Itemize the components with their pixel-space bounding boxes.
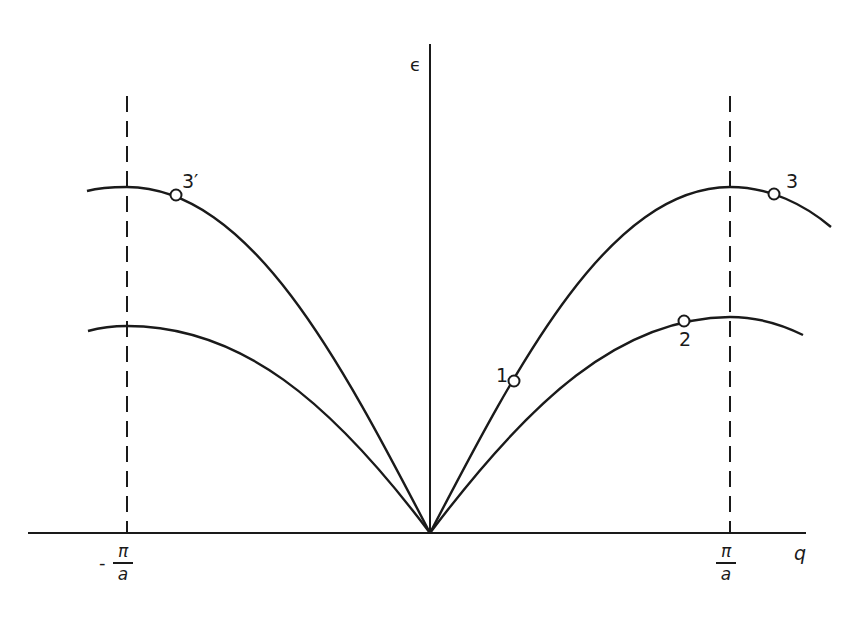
point-2-label: 2 [679,330,691,349]
left-boundary-numerator: π [118,543,128,560]
right-boundary-label: π a [716,543,736,583]
upper-branch-left [87,187,430,533]
lower-branch-left [88,326,430,533]
left-boundary-label: π a [113,543,133,583]
point-3-prime-marker [171,190,182,201]
right-boundary-denominator: a [721,566,731,583]
right-boundary-numerator: π [721,543,731,560]
lower-branch-right [430,317,803,533]
upper-branch-right [430,187,831,533]
point-3-prime-label: 3′ [182,172,198,191]
point-2-marker [679,316,690,327]
point-1-marker [509,376,520,387]
point-3-label: 3 [786,172,798,191]
left-boundary-denominator: a [118,566,128,583]
left-boundary-sign: - [99,552,106,573]
y-axis-label: ϵ [410,56,421,74]
point-3-marker [769,189,780,200]
dispersion-plot [0,0,859,618]
x-axis-label: q [794,544,806,563]
point-1-label: 1 [496,366,508,385]
